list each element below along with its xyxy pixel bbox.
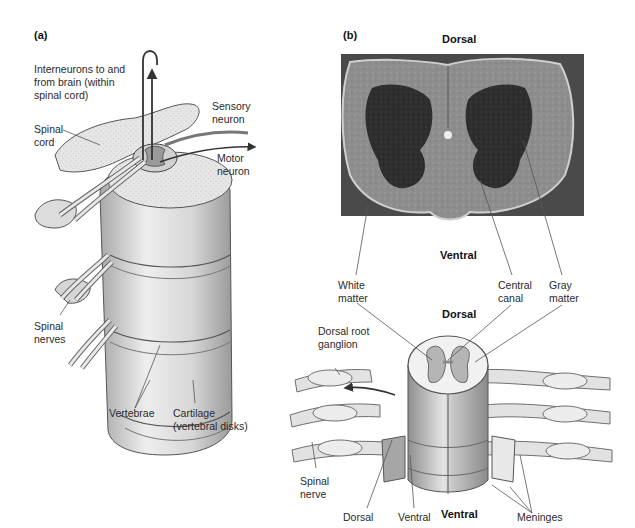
label-gray-matter: Gray matter: [549, 279, 579, 305]
label-interneurons: Interneurons to and from brain (within s…: [34, 63, 125, 102]
panel-b-tag: (b): [343, 29, 357, 41]
spinal-cord-micrograph: [341, 54, 584, 220]
label-cartilage: Cartilage (vertebral disks): [173, 407, 248, 433]
label-motor-neuron: Motor neuron: [217, 152, 250, 178]
label-ventral-root: Ventral: [398, 511, 431, 524]
label-sensory-neuron: Sensory neuron: [212, 100, 251, 126]
label-spinal-nerve: Spinal nerve: [300, 475, 329, 501]
label-dorsal-root: Dorsal: [343, 511, 373, 524]
illustration-ventral-label: Ventral: [441, 508, 478, 521]
illustration-dorsal-label: Dorsal: [442, 308, 476, 321]
label-central-canal: Central canal: [498, 279, 532, 305]
micrograph-ventral-label: Ventral: [440, 249, 477, 262]
panel-a-tag: (a): [34, 29, 47, 41]
label-spinal-cord: Spinal cord: [34, 123, 63, 149]
micrograph-dorsal-label: Dorsal: [442, 33, 476, 46]
label-spinal-nerves: Spinal nerves: [34, 320, 66, 346]
spinal-cord-3d-illustration: [290, 336, 612, 494]
label-dorsal-root-ganglion: Dorsal root ganglion: [318, 325, 369, 351]
label-vertebrae: Vertebrae: [109, 407, 155, 420]
label-meninges: Meninges: [517, 511, 563, 524]
label-white-matter: White matter: [338, 279, 368, 305]
